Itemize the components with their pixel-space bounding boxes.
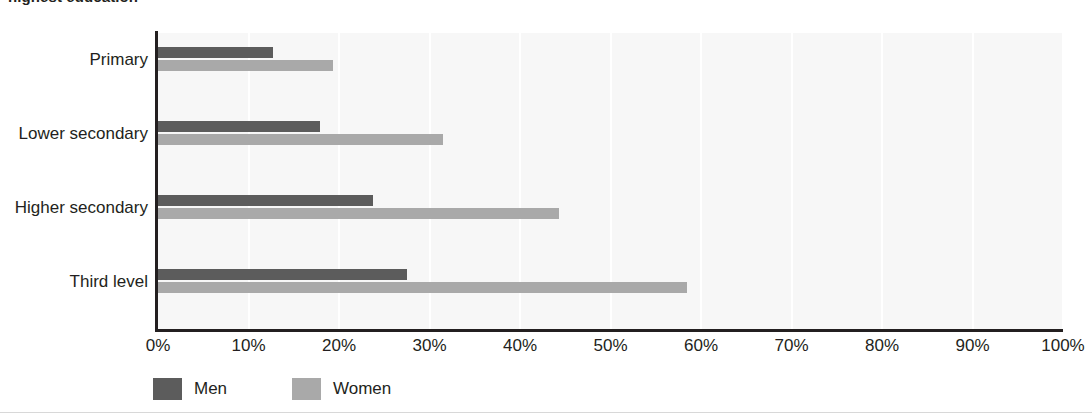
- x-tick-label: 60%: [684, 336, 718, 356]
- x-axis-tick-labels: 0%10%20%30%40%50%60%70%80%90%100%: [158, 336, 1063, 362]
- bar-men-primary: [158, 47, 273, 58]
- chart-title: highest education: [8, 0, 138, 5]
- x-tick-label: 90%: [955, 336, 989, 356]
- y-axis-line: [155, 31, 158, 332]
- x-tick-label: 50%: [593, 336, 627, 356]
- x-tick-label: 30%: [412, 336, 446, 356]
- x-tick-label: 80%: [865, 336, 899, 356]
- x-tick-label: 20%: [322, 336, 356, 356]
- bar-women-primary: [158, 60, 333, 71]
- bar-men-higher-secondary: [158, 195, 373, 206]
- legend-swatch-men: [153, 378, 182, 400]
- x-tick-label: 40%: [503, 336, 537, 356]
- bar-men-lower-secondary: [158, 121, 320, 132]
- x-axis-line: [155, 329, 1063, 332]
- x-tick-label: 70%: [774, 336, 808, 356]
- legend-label-women: Women: [333, 378, 391, 400]
- chart-category-row: [158, 195, 1063, 269]
- bar-men-third-level: [158, 269, 407, 280]
- legend-swatch-women: [292, 378, 321, 400]
- chart-category-row: [158, 47, 1063, 121]
- x-tick-label: 100%: [1041, 336, 1084, 356]
- x-tick-label: 0%: [146, 336, 171, 356]
- x-tick-label: 10%: [231, 336, 265, 356]
- category-label-third-level: Third level: [4, 272, 148, 292]
- category-label-lower-secondary: Lower secondary: [4, 124, 148, 144]
- category-label-higher-secondary: Higher secondary: [4, 198, 148, 218]
- chart-category-row: [158, 121, 1063, 195]
- category-label-primary: Primary: [4, 50, 148, 70]
- bar-women-third-level: [158, 282, 687, 293]
- bar-women-higher-secondary: [158, 208, 559, 219]
- legend-item-women[interactable]: Women: [292, 378, 391, 400]
- bar-women-lower-secondary: [158, 134, 443, 145]
- legend-label-men: Men: [194, 378, 227, 400]
- legend-item-men[interactable]: Men: [153, 378, 227, 400]
- plot-area: [158, 33, 1063, 330]
